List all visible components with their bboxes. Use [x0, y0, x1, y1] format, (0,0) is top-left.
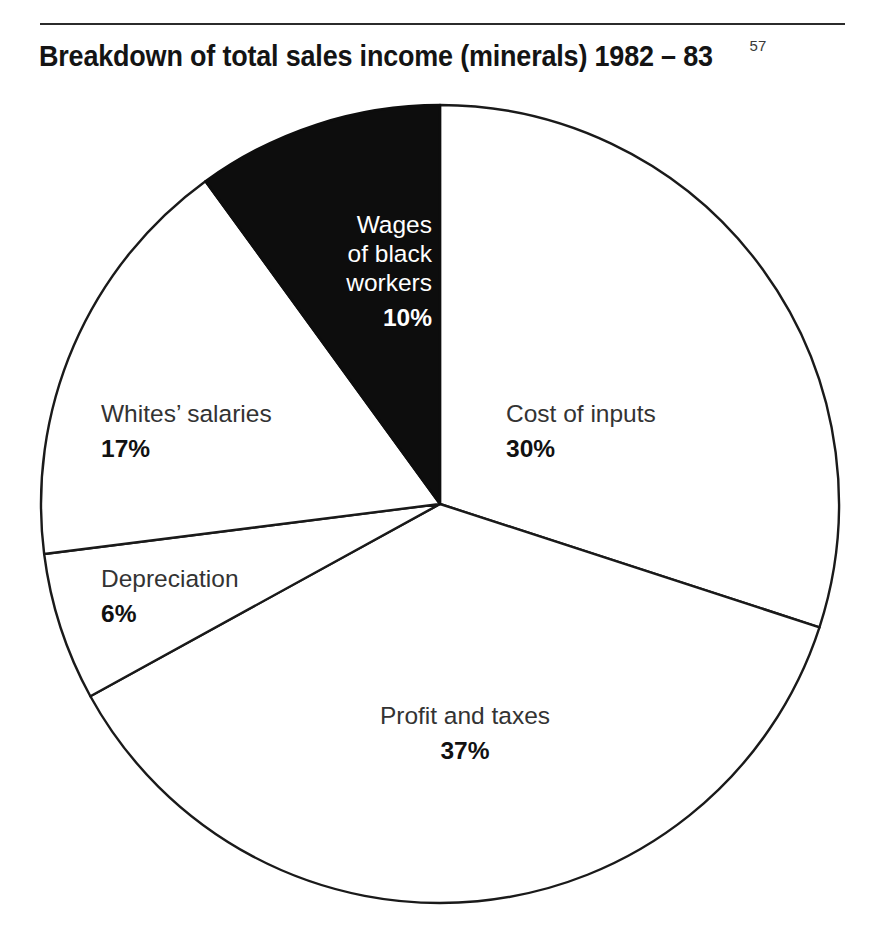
- pie-chart: [0, 88, 878, 938]
- pie-label-depreciation: Depreciation 6%: [101, 563, 239, 630]
- page-title-text: Breakdown of total sales income (mineral…: [39, 40, 713, 73]
- pie-label-wages-of-black-workers: Wages of black workers 10%: [292, 210, 432, 334]
- pie-label-name-line-1: Wages: [292, 210, 432, 239]
- pie-label-value: 10%: [292, 302, 432, 334]
- pie-label-name: Depreciation: [101, 563, 239, 595]
- pie-label-name: Cost of inputs: [506, 398, 656, 430]
- page-title: Breakdown of total sales income (mineral…: [39, 40, 780, 73]
- pie-label-profit-and-taxes: Profit and taxes 37%: [355, 700, 575, 767]
- pie-chart-svg: [0, 88, 878, 938]
- pie-slice-group: [41, 105, 839, 903]
- pie-label-value: 37%: [355, 735, 575, 767]
- header-divider-rule: [40, 23, 845, 25]
- pie-label-value: 17%: [101, 433, 272, 465]
- footnote-marker: 57: [750, 37, 767, 54]
- pie-label-value: 6%: [101, 598, 239, 630]
- pie-label-whites-salaries: Whites’ salaries 17%: [101, 398, 272, 465]
- pie-label-name-line-3: workers: [292, 268, 432, 297]
- pie-label-value: 30%: [506, 433, 656, 465]
- pie-label-name-line-2: of black: [292, 239, 432, 268]
- pie-label-cost-of-inputs: Cost of inputs 30%: [506, 398, 656, 465]
- pie-label-name: Whites’ salaries: [101, 398, 272, 430]
- pie-label-name: Profit and taxes: [355, 700, 575, 732]
